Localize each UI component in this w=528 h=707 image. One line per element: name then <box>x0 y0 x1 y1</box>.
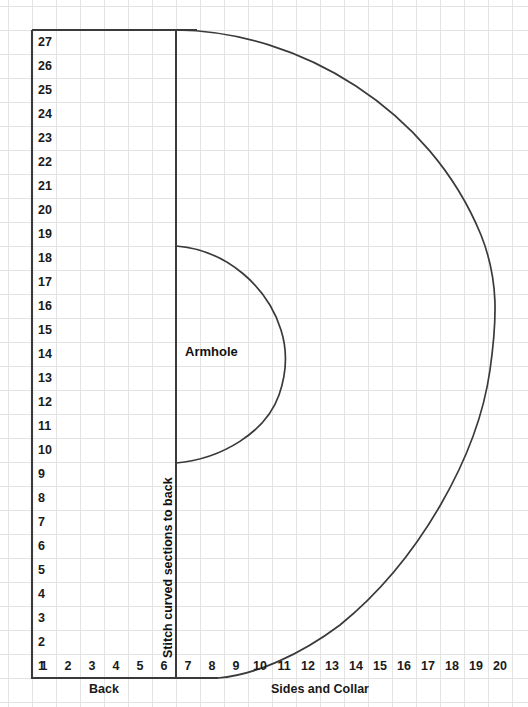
x-axis-tick: 10 <box>248 654 272 678</box>
y-axis-tick: 8 <box>34 486 58 510</box>
x-axis-tick: 17 <box>416 654 440 678</box>
y-axis-tick: 5 <box>34 558 58 582</box>
y-axis-tick: 21 <box>34 174 58 198</box>
y-axis-tick: 19 <box>34 222 58 246</box>
y-axis-tick: 10 <box>34 438 58 462</box>
x-axis-tick: 8 <box>200 654 224 678</box>
x-axis-tick: 20 <box>488 654 512 678</box>
y-axis-tick: 9 <box>34 462 58 486</box>
x-axis-tick: 13 <box>320 654 344 678</box>
y-axis-tick: 4 <box>34 582 58 606</box>
y-axis-tick: 2 <box>34 630 58 654</box>
y-axis-tick: 24 <box>34 102 58 126</box>
y-axis-tick: 17 <box>34 270 58 294</box>
x-axis-tick: 5 <box>128 654 152 678</box>
grid-lines <box>0 0 528 707</box>
x-axis-tick: 9 <box>224 654 248 678</box>
y-axis-tick: 27 <box>34 30 58 54</box>
y-axis-tick: 14 <box>34 342 58 366</box>
y-axis-tick: 11 <box>34 414 58 438</box>
stitch-note-label: Stitch curved sections to back <box>161 477 175 658</box>
x-axis-tick: 12 <box>296 654 320 678</box>
y-axis-tick: 12 <box>34 390 58 414</box>
x-axis-tick: 16 <box>392 654 416 678</box>
armhole-label: Armhole <box>185 344 238 359</box>
y-axis-tick: 16 <box>34 294 58 318</box>
y-axis-tick: 3 <box>34 606 58 630</box>
y-axis-tick: 25 <box>34 78 58 102</box>
pattern-chart: 1234567891011121314151617181920212223242… <box>0 0 528 707</box>
y-axis-tick: 15 <box>34 318 58 342</box>
pattern-diagram <box>0 0 528 707</box>
x-axis-tick: 2 <box>56 654 80 678</box>
x-axis-tick: 11 <box>272 654 296 678</box>
y-axis-tick: 13 <box>34 366 58 390</box>
x-axis-tick: 4 <box>104 654 128 678</box>
x-axis-tick: 19 <box>464 654 488 678</box>
y-axis-tick: 18 <box>34 246 58 270</box>
x-axis-tick: 15 <box>368 654 392 678</box>
x-axis-tick: 18 <box>440 654 464 678</box>
y-axis-tick: 7 <box>34 510 58 534</box>
y-axis-tick: 26 <box>34 54 58 78</box>
section-label-sides-collar: Sides and Collar <box>248 682 392 696</box>
y-axis-tick: 6 <box>34 534 58 558</box>
x-axis-tick: 7 <box>176 654 200 678</box>
y-axis-tick: 20 <box>34 198 58 222</box>
x-axis-tick: 1 <box>32 654 56 678</box>
section-label-back: Back <box>68 682 140 696</box>
x-axis-tick: 14 <box>344 654 368 678</box>
y-axis-tick: 22 <box>34 150 58 174</box>
x-axis-tick: 3 <box>80 654 104 678</box>
y-axis-tick: 23 <box>34 126 58 150</box>
